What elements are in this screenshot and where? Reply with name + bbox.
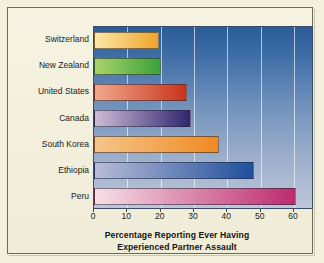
- y-axis-label-canada: Canada: [11, 113, 89, 123]
- y-axis-label-united-states: United States: [11, 86, 89, 96]
- chart-figure: SwitzerlandNew ZealandUnited StatesCanad…: [0, 0, 324, 263]
- gridline-40: [227, 27, 228, 208]
- bar-united-states: [94, 84, 187, 101]
- y-axis-label-ethiopia: Ethiopia: [11, 165, 89, 175]
- y-axis-label-peru: Peru: [11, 191, 89, 201]
- x-tick-label-0: 0: [91, 211, 96, 221]
- x-tick-label-60: 60: [288, 211, 297, 221]
- x-axis-title-line-2: Experienced Partner Assault: [38, 242, 316, 254]
- x-axis-ticks: 0102030405060: [93, 211, 313, 223]
- y-axis-label-switzerland: Switzerland: [11, 34, 89, 44]
- bar-south-korea: [94, 136, 219, 153]
- y-axis-label-new-zealand: New Zealand: [11, 60, 89, 70]
- y-axis-label-south-korea: South Korea: [11, 139, 89, 149]
- x-tick-label-20: 20: [155, 211, 164, 221]
- bar-switzerland: [94, 32, 159, 49]
- gridline-50: [261, 27, 262, 208]
- bar-canada: [94, 110, 191, 127]
- x-tick-label-30: 30: [188, 211, 197, 221]
- x-axis-title: Percentage Reporting Ever HavingExperien…: [38, 230, 316, 253]
- bar-ethiopia: [94, 162, 254, 179]
- gridline-30: [194, 27, 195, 208]
- x-tick-label-50: 50: [255, 211, 264, 221]
- gridline-60: [294, 27, 295, 208]
- bar-new-zealand: [94, 58, 161, 75]
- x-axis-title-line-1: Percentage Reporting Ever Having: [38, 230, 316, 242]
- chart-frame: SwitzerlandNew ZealandUnited StatesCanad…: [7, 7, 313, 254]
- bar-peru: [94, 188, 296, 205]
- x-tick-label-40: 40: [222, 211, 231, 221]
- plot-area: [93, 26, 313, 209]
- x-tick-label-10: 10: [122, 211, 131, 221]
- y-axis-labels: SwitzerlandNew ZealandUnited StatesCanad…: [8, 26, 89, 209]
